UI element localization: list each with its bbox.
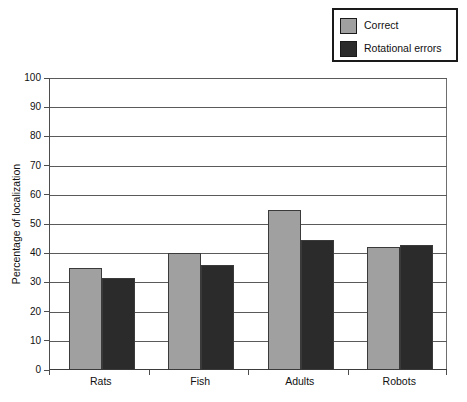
x-tick-mark-1	[149, 370, 150, 375]
legend-item-rotational-errors: Rotational errors	[340, 38, 456, 59]
x-tick-mark-edge-1	[446, 370, 447, 375]
y-tick-90: 90	[30, 102, 49, 112]
bar-series-group	[50, 78, 447, 370]
y-tick-label-50: 50	[30, 219, 44, 229]
bar-adults-rotational-errors	[301, 240, 334, 370]
bar-robots-rotational-errors	[400, 245, 433, 370]
bar-rats-rotational-errors	[102, 278, 135, 370]
legend-label-rotational-errors: Rotational errors	[364, 43, 442, 54]
chart-legend: Correct Rotational errors	[332, 8, 458, 62]
y-tick-10: 10	[30, 336, 49, 346]
y-tick-label-80: 80	[30, 131, 44, 141]
y-tick-60: 60	[30, 190, 49, 200]
y-tick-label-40: 40	[30, 248, 44, 258]
legend-swatch-correct	[340, 18, 357, 34]
y-tick-label-100: 100	[24, 73, 44, 83]
plot-area	[49, 78, 447, 370]
y-tick-label-20: 20	[30, 307, 44, 317]
x-tick-mark-3	[348, 370, 349, 375]
legend-label-correct: Correct	[364, 20, 398, 31]
bar-adults-correct	[268, 210, 301, 370]
y-tick-label-60: 60	[30, 190, 44, 200]
x-tick-mark-2	[248, 370, 249, 375]
y-tick-80: 80	[30, 131, 49, 141]
bar-rats-correct	[69, 268, 102, 370]
bar-chart-figure: Correct Rotational errors Percentage of …	[0, 0, 467, 402]
bar-robots-correct	[367, 247, 400, 370]
y-tick-label-0: 0	[35, 365, 44, 375]
bar-fish-correct	[168, 253, 201, 370]
y-tick-label-90: 90	[30, 102, 44, 112]
x-axis-label-robots: Robots	[383, 376, 416, 387]
y-tick-100: 100	[24, 73, 49, 83]
y-tick-50: 50	[30, 219, 49, 229]
y-tick-40: 40	[30, 248, 49, 258]
y-tick-0: 0	[35, 365, 49, 375]
legend-swatch-rotational-errors	[340, 41, 357, 57]
x-axis-label-fish: Fish	[190, 376, 210, 387]
y-tick-label-10: 10	[30, 336, 44, 346]
y-tick-30: 30	[30, 277, 49, 287]
y-tick-20: 20	[30, 307, 49, 317]
legend-item-correct: Correct	[340, 15, 456, 36]
y-axis-ticks: 0102030405060708090100	[0, 78, 49, 370]
y-tick-70: 70	[30, 161, 49, 171]
bar-fish-rotational-errors	[201, 265, 234, 370]
x-axis-label-adults: Adults	[285, 376, 314, 387]
y-tick-label-30: 30	[30, 277, 44, 287]
x-axis-label-rats: Rats	[90, 376, 112, 387]
x-axis-labels: RatsFishAdultsRobots	[49, 376, 447, 394]
y-tick-label-70: 70	[30, 161, 44, 171]
x-tick-mark-edge-0	[49, 370, 50, 375]
